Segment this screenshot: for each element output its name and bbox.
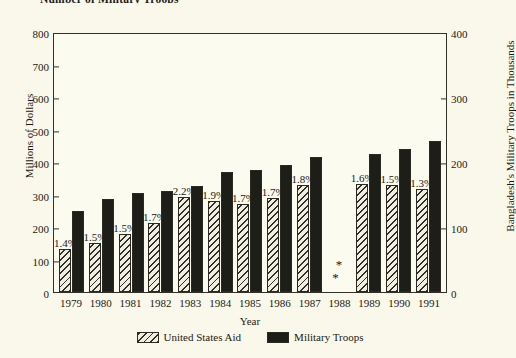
y-axis-right-tick-label: 400 bbox=[451, 28, 468, 40]
bar-group-1991[interactable]: 1.3% bbox=[413, 34, 443, 292]
bar-us-aid-1979[interactable]: 1.4% bbox=[59, 249, 71, 292]
bar-group-1987[interactable]: 1.8% bbox=[295, 34, 325, 292]
x-axis-tick-label-1980: 1980 bbox=[86, 297, 116, 309]
bar-military-troops-1980[interactable] bbox=[102, 199, 114, 292]
x-axis-tick-label-1988: 1988 bbox=[325, 297, 355, 309]
y-axis-left-tick-label: 800 bbox=[33, 28, 50, 40]
bar-military-troops-1989[interactable] bbox=[369, 154, 381, 292]
bar-group-1980[interactable]: 1.5% bbox=[87, 34, 117, 292]
y-axis-left-tick-label: 700 bbox=[33, 61, 50, 73]
bar-series-group: 1.4%1.5%1.5%1.7%2.2%1.9%1.7%1.7%1.8%* *1… bbox=[54, 34, 446, 292]
x-axis-tick-label-1986: 1986 bbox=[265, 297, 295, 309]
y-axis-left-tick-label: 300 bbox=[33, 191, 50, 203]
legend-label: Military Troops bbox=[294, 331, 363, 343]
bar-group-1986[interactable]: 1.7% bbox=[265, 34, 295, 292]
legend-item[interactable]: Military Troops bbox=[267, 331, 363, 343]
x-axis-tick-label-1979: 1979 bbox=[56, 297, 86, 309]
y-axis-right-tick-label: 200 bbox=[451, 158, 468, 170]
bar-military-troops-1981[interactable] bbox=[132, 193, 144, 292]
bar-group-1981[interactable]: 1.5% bbox=[116, 34, 146, 292]
x-axis-tick-label-1981: 1981 bbox=[116, 297, 146, 309]
legend-swatch-icon bbox=[137, 332, 159, 343]
y-axis-right-tick-label: 0 bbox=[451, 288, 457, 300]
bar-us-aid-1989[interactable]: 1.6% bbox=[356, 184, 368, 292]
x-axis-tick-label-1983: 1983 bbox=[175, 297, 205, 309]
no-data-marker: * * bbox=[324, 258, 354, 284]
x-axis-tick-label-1990: 1990 bbox=[384, 297, 414, 309]
y-axis-right-title: Bangladesh's Military Troops in Thousand… bbox=[504, 1, 516, 271]
bar-us-aid-1982[interactable]: 1.7% bbox=[148, 223, 160, 292]
bar-us-aid-1986[interactable]: 1.7% bbox=[267, 198, 279, 292]
bar-group-1984[interactable]: 1.9% bbox=[205, 34, 235, 292]
bar-military-troops-1979[interactable] bbox=[72, 211, 84, 292]
y-axis-left-tick-label: 100 bbox=[33, 256, 50, 268]
bar-us-aid-1983[interactable]: 2.2% bbox=[178, 197, 190, 292]
y-axis-left-tick-label: 200 bbox=[33, 223, 50, 235]
x-axis-tick-label-1982: 1982 bbox=[146, 297, 176, 309]
bar-group-1988[interactable]: * * bbox=[324, 34, 354, 292]
bar-military-troops-1984[interactable] bbox=[221, 172, 233, 292]
legend-label: United States Aid bbox=[164, 331, 242, 343]
plot-area: 8007006005004003002001000 4003002001000 … bbox=[53, 33, 447, 293]
bar-us-aid-1990[interactable]: 1.5% bbox=[386, 185, 398, 292]
bar-military-troops-1985[interactable] bbox=[250, 170, 262, 292]
y-axis-left-tick-label: 400 bbox=[33, 158, 50, 170]
bar-us-aid-1980[interactable]: 1.5% bbox=[89, 243, 101, 292]
bar-military-troops-1987[interactable] bbox=[310, 157, 322, 292]
y-axis-left-tick-label: 600 bbox=[33, 93, 50, 105]
bar-group-1989[interactable]: 1.6% bbox=[354, 34, 384, 292]
bar-military-troops-1990[interactable] bbox=[399, 149, 411, 292]
y-axis-right-tick-label: 300 bbox=[451, 93, 468, 105]
x-axis-tick-label-1991: 1991 bbox=[414, 297, 444, 309]
bar-group-1982[interactable]: 1.7% bbox=[146, 34, 176, 292]
bar-military-troops-1982[interactable] bbox=[161, 191, 173, 292]
bar-group-1990[interactable]: 1.5% bbox=[384, 34, 414, 292]
bar-military-troops-1983[interactable] bbox=[191, 186, 203, 292]
y-axis-left-tick-label: 500 bbox=[33, 126, 50, 138]
y-axis-right-tick-label: 100 bbox=[451, 223, 468, 235]
x-axis-tick-label-1987: 1987 bbox=[295, 297, 325, 309]
bar-military-troops-1991[interactable] bbox=[429, 141, 441, 292]
bar-us-aid-1985[interactable]: 1.7% bbox=[237, 204, 249, 292]
legend-item[interactable]: United States Aid bbox=[137, 331, 242, 343]
bar-us-aid-1991[interactable]: 1.3% bbox=[416, 189, 428, 292]
bar-us-aid-1984[interactable]: 1.9% bbox=[208, 201, 220, 292]
x-axis-tick-labels: 1979198019811982198319841985198619871988… bbox=[53, 297, 447, 309]
bar-group-1983[interactable]: 2.2% bbox=[176, 34, 206, 292]
y-axis-left-tick-label: 0 bbox=[44, 288, 50, 300]
chart-title: Number of Military Troops bbox=[40, 0, 179, 3]
x-axis-tick-label-1984: 1984 bbox=[205, 297, 235, 309]
bar-group-1979[interactable]: 1.4% bbox=[57, 34, 87, 292]
bar-group-1985[interactable]: 1.7% bbox=[235, 34, 265, 292]
x-axis-tick-label-1989: 1989 bbox=[354, 297, 384, 309]
bar-military-troops-1986[interactable] bbox=[280, 165, 292, 292]
x-axis-tick-label-1985: 1985 bbox=[235, 297, 265, 309]
bar-us-aid-1987[interactable]: 1.8% bbox=[297, 185, 309, 292]
chart-legend: United States AidMilitary Troops bbox=[53, 331, 447, 343]
x-axis-title: Year bbox=[53, 315, 447, 327]
bar-us-aid-1981[interactable]: 1.5% bbox=[119, 234, 131, 292]
legend-swatch-icon bbox=[267, 332, 289, 343]
